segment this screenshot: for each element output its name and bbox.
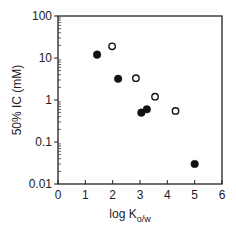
- x-axis-label-subscript: o/w: [137, 214, 152, 224]
- y-axis-ticks: 1001010.10.01: [29, 9, 61, 191]
- y-axis-label-text: 50% IC (mM): [10, 65, 24, 136]
- y-tick-label: 100: [32, 9, 52, 23]
- x-axis-ticks: 0123456: [55, 180, 226, 202]
- y-tick-label: 0.1: [35, 135, 52, 149]
- data-points: [93, 43, 198, 168]
- scatter-chart: 50% IC (mM) 1001010.10.01 0123456 log Ko…: [0, 0, 236, 233]
- y-tick-label: 0.01: [29, 177, 53, 191]
- x-axis-label-text: log Ko/w: [109, 207, 151, 224]
- x-tick-label: 1: [82, 188, 89, 202]
- x-tick-label: 2: [109, 188, 116, 202]
- filled-data-point: [114, 75, 122, 83]
- open-data-point: [172, 108, 178, 114]
- x-tick-label: 0: [55, 188, 62, 202]
- y-axis-label: 50% IC (mM): [10, 65, 24, 136]
- x-tick-label: 6: [219, 188, 226, 202]
- open-data-point: [133, 75, 139, 81]
- axes-box: [58, 16, 222, 184]
- x-tick-label: 4: [164, 188, 171, 202]
- x-tick-label: 3: [137, 188, 144, 202]
- filled-data-point: [143, 106, 151, 114]
- x-axis-label: log Ko/w: [109, 207, 151, 224]
- x-tick-label: 5: [191, 188, 198, 202]
- open-data-point: [152, 93, 158, 99]
- filled-data-point: [191, 160, 199, 168]
- y-tick-label: 1: [45, 93, 52, 107]
- y-tick-label: 10: [39, 51, 53, 65]
- filled-data-point: [93, 51, 101, 59]
- open-data-point: [109, 43, 115, 49]
- plot-frame: [58, 16, 222, 184]
